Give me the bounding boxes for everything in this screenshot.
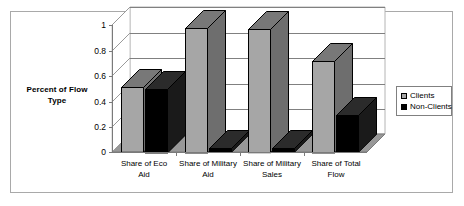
legend-label-clients: Clients [410,91,434,100]
x-category-label-1-line-2: Aid [176,169,240,180]
x-category-label-3-line-1: Share of Total [304,158,368,169]
x-category-label-3-line-2: Flow [304,169,368,180]
plot-area: 1 0.8 0.6 0.4 0.2 0 Share of Eco Aid Sha… [0,0,464,206]
x-tick-0 [176,153,177,156]
non-clients-swatch-icon [401,104,407,110]
x-tick-1 [240,153,241,156]
x-category-label-3: Share of Total Flow [304,158,368,180]
x-category-label-2-line-1: Share of Military [240,158,304,169]
clients-swatch-icon [401,93,407,99]
chart-figure: Percent of Flow Type [0,0,464,206]
legend-item-non-clients[interactable]: Non-Clients [401,101,448,112]
legend-label-non-clients: Non-Clients [410,102,452,111]
x-tick-2 [304,153,305,156]
x-category-label-0: Share of Eco Aid [112,158,176,180]
x-category-label-0-line-2: Aid [112,169,176,180]
x-category-label-1-line-1: Share of Military [176,158,240,169]
chart-legend: Clients Non-Clients [396,86,452,116]
x-category-label-1: Share of Military Aid [176,158,240,180]
x-category-label-2: Share of Military Sales [240,158,304,180]
legend-item-clients[interactable]: Clients [401,90,448,101]
x-category-label-0-line-1: Share of Eco [112,158,176,169]
x-category-label-2-line-2: Sales [240,169,304,180]
